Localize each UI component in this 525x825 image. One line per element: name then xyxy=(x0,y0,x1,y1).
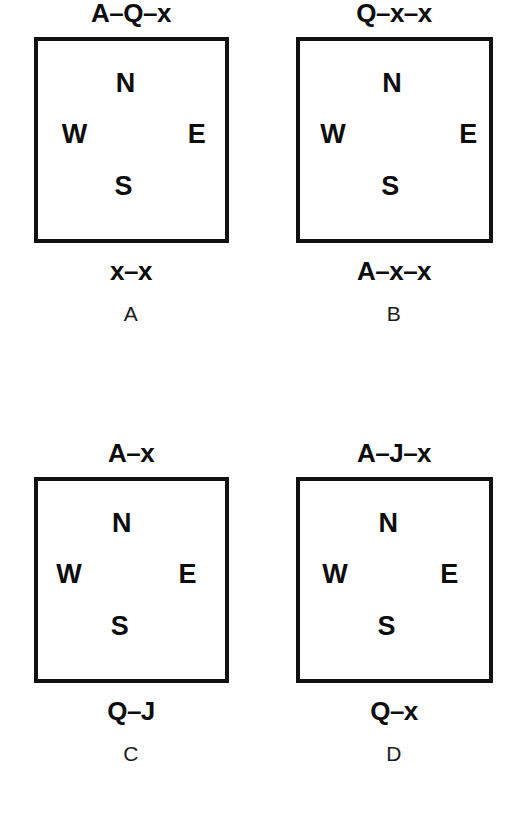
compass-south-label: S xyxy=(115,173,133,200)
compass-west-label: W xyxy=(320,121,345,148)
compass-north-label: N xyxy=(379,510,399,537)
panel-c-header-label: A–x xyxy=(108,440,154,466)
panel-b-footer-label: A–x–x xyxy=(357,258,431,284)
panel-a-identifier: A xyxy=(124,303,138,324)
panel-a-compass-box: N W E S xyxy=(34,37,229,243)
figure-sheet: A–Q–x N W E S x–x A Q–x–x N W E S A–x–x … xyxy=(0,0,525,825)
panel-c: A–x N W E S Q–J C xyxy=(0,440,262,825)
compass-south-label: S xyxy=(111,613,129,640)
compass-east-label: E xyxy=(188,121,206,148)
compass-south-label: S xyxy=(381,173,399,200)
panel-b-header-label: Q–x–x xyxy=(356,0,432,26)
compass-east-label: E xyxy=(178,561,196,588)
compass-west-label: W xyxy=(56,561,81,588)
compass-south-label: S xyxy=(377,613,395,640)
panel-d-identifier: D xyxy=(386,743,402,764)
panel-c-identifier: C xyxy=(123,743,139,764)
compass-east-label: E xyxy=(459,121,477,148)
panel-d-header-label: A–J–x xyxy=(357,440,431,466)
panel-c-compass-box: N W E S xyxy=(34,477,229,683)
compass-west-label: W xyxy=(62,121,87,148)
panel-a-footer-label: x–x xyxy=(110,258,152,284)
panel-a-header-label: A–Q–x xyxy=(91,0,171,26)
panel-d-compass-box: N W E S xyxy=(296,477,493,683)
compass-north-label: N xyxy=(382,70,402,97)
panel-a: A–Q–x N W E S x–x A xyxy=(0,0,262,400)
panel-d: A–J–x N W E S Q–x D xyxy=(263,440,525,825)
compass-north-label: N xyxy=(112,510,132,537)
compass-east-label: E xyxy=(440,561,458,588)
panel-b: Q–x–x N W E S A–x–x B xyxy=(263,0,525,400)
panel-c-footer-label: Q–J xyxy=(107,698,155,724)
compass-west-label: W xyxy=(322,561,347,588)
compass-north-label: N xyxy=(116,70,136,97)
panel-d-footer-label: Q–x xyxy=(370,698,418,724)
panel-b-identifier: B xyxy=(387,303,401,324)
panel-b-compass-box: N W E S xyxy=(296,37,493,243)
